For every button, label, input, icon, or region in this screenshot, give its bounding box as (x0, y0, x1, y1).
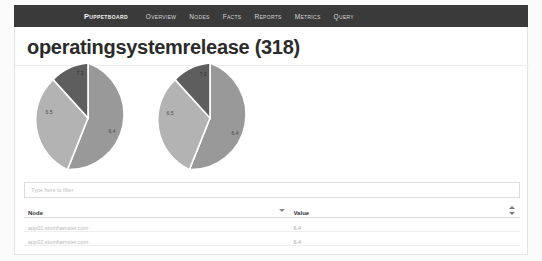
table-row[interactable]: app02.stumhamster.com 6.4 (24, 232, 520, 246)
pie-chart-2: 6.4 6.5 7.2 (151, 59, 269, 177)
nav-item-nodes[interactable]: Nodes (189, 13, 209, 20)
pie-2-label-1: 6.5 (167, 110, 174, 116)
pie-1-label-2: 7.2 (77, 70, 84, 76)
nav-item-metrics[interactable]: Metrics (295, 13, 321, 20)
brand-logo[interactable]: Puppetboard (84, 12, 128, 21)
pie-chart-2-svg (151, 59, 269, 177)
nav-item-overview[interactable]: Overview (146, 13, 176, 20)
pie-1-label-1: 6.5 (46, 109, 53, 115)
pie-1-label-0: 6.4 (109, 128, 116, 134)
cell-value: 6.4 (293, 239, 301, 245)
pie-2-label-0: 6.4 (232, 130, 239, 136)
filter-input[interactable] (31, 187, 519, 193)
cell-node[interactable]: app02.stumhamster.com (28, 239, 88, 245)
content-card: operatingsystemrelease (318) 6.4 6.5 7.2 (14, 27, 528, 255)
nav-item-reports[interactable]: Reports (254, 13, 281, 20)
page-title: operatingsystemrelease (318) (27, 36, 300, 59)
app-root: Puppetboard Overview Nodes Facts Reports… (0, 0, 542, 261)
top-navbar: Puppetboard Overview Nodes Facts Reports… (14, 5, 528, 27)
nav-item-query[interactable]: Query (334, 13, 354, 20)
pie-2-label-2: 7.2 (200, 71, 207, 77)
facts-table: Node Value app01.stumhamster.com 6 (24, 203, 520, 246)
nav-item-facts[interactable]: Facts (223, 13, 242, 20)
pie-chart-1-svg (29, 59, 147, 177)
charts-area: 6.4 6.5 7.2 6.4 6.5 7.2 (23, 59, 283, 179)
filter-input-wrapper[interactable] (24, 182, 520, 198)
caret-down-icon[interactable] (272, 209, 287, 212)
pie-chart-1: 6.4 6.5 7.2 (29, 59, 147, 177)
sort-both-icon[interactable] (505, 206, 520, 215)
